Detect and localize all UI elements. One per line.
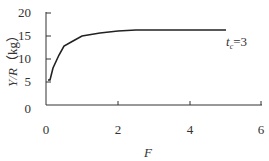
x-tick-6: 6 xyxy=(258,122,265,137)
x-tick-0: 0 xyxy=(43,122,50,137)
y-axis-label: Y/R（kg） xyxy=(5,29,20,87)
series-line-tc3 xyxy=(48,30,226,80)
y-tick-5: 5 xyxy=(25,74,32,89)
x-axis-label: F xyxy=(143,145,153,160)
x-tick-2: 2 xyxy=(115,122,122,137)
annotation-tc: tc=3 xyxy=(226,34,247,51)
y-tick-20: 20 xyxy=(18,5,31,20)
y-tick-0: 0 xyxy=(25,101,32,116)
x-tick-4: 4 xyxy=(187,122,194,137)
chart: 20 15 10 5 0 0 2 4 6 F Y/R（kg） tc=3 xyxy=(0,0,269,161)
